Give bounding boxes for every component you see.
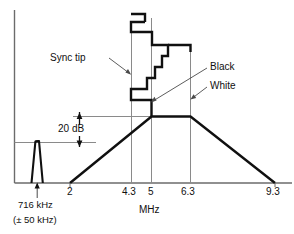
label-20-db: 20 dB — [58, 123, 84, 135]
x-tick-label-9-3: 9.3 — [266, 186, 280, 198]
axes-group — [15, 10, 293, 183]
x-tick-label-5: 5 — [148, 186, 154, 198]
video-staircase-waveform — [131, 22, 168, 116]
sync-tip-leader — [109, 58, 129, 73]
label-sync-tip: Sync tip — [50, 52, 86, 64]
db-arrow-head-down — [77, 141, 83, 148]
x-tick-label-6-3: 6.3 — [181, 186, 195, 198]
label-50-khz-tolerance: (± 50 kHz) — [13, 215, 57, 226]
x-tick-label-4-3: 4.3 — [122, 186, 136, 198]
label-black: Black — [210, 61, 234, 73]
sync-tip-leader-arrow — [125, 69, 131, 75]
black-leader — [153, 68, 207, 101]
spectrum-diagram: Sync tip Black White 20 dB 716 kHz (± 50… — [0, 0, 294, 234]
label-716-khz: 716 kHz — [18, 200, 53, 211]
db-arrow-head-up — [77, 113, 83, 120]
x-axis-unit-label: MHz — [139, 204, 160, 216]
vision-passband-envelope — [70, 117, 275, 184]
x-tick-label-2: 2 — [67, 186, 73, 198]
staircase-upper-shelf — [168, 45, 191, 52]
sound-carrier-peak — [32, 141, 43, 183]
label-white: White — [210, 80, 236, 92]
white-leader-arrow — [190, 94, 196, 99]
sound-carrier-cap — [35, 141, 39, 142]
sound-carrier-outline — [32, 141, 43, 183]
